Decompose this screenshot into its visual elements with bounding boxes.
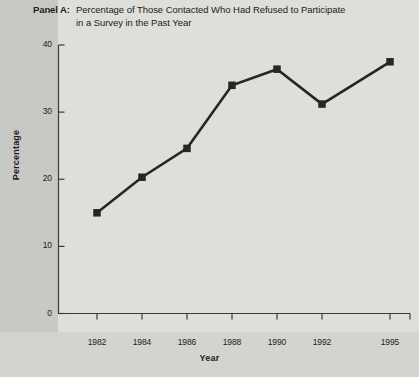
x-axis-tick-label: 1995 bbox=[372, 337, 408, 347]
x-axis-tick-label: 1984 bbox=[124, 337, 160, 347]
y-axis-tick-label: 40 bbox=[30, 39, 52, 49]
data-point-marker bbox=[93, 209, 101, 217]
y-axis-ticks bbox=[59, 45, 65, 314]
x-axis-tick-label: 1988 bbox=[214, 337, 250, 347]
data-point-marker bbox=[138, 173, 146, 181]
x-axis-tick-label: 1982 bbox=[79, 337, 115, 347]
x-axis-tick-label: 1990 bbox=[259, 337, 295, 347]
data-point-marker bbox=[386, 58, 394, 66]
data-point-marker bbox=[318, 100, 326, 108]
data-series-line bbox=[97, 62, 390, 213]
x-axis-ticks bbox=[97, 314, 410, 320]
data-point-marker bbox=[273, 65, 281, 73]
y-axis-tick-label: 10 bbox=[30, 240, 52, 250]
data-point-marker bbox=[183, 145, 191, 153]
x-axis-tick-label: 1986 bbox=[169, 337, 205, 347]
chart-canvas bbox=[0, 0, 419, 377]
y-axis-tick-label: 0 bbox=[30, 308, 52, 318]
x-axis-tick-label: 1992 bbox=[304, 337, 340, 347]
data-point-marker bbox=[228, 82, 236, 90]
chart-figure: Panel A: Percentage of Those Contacted W… bbox=[0, 0, 419, 377]
y-axis-tick-label: 20 bbox=[30, 173, 52, 183]
y-axis-tick-label: 30 bbox=[30, 106, 52, 116]
